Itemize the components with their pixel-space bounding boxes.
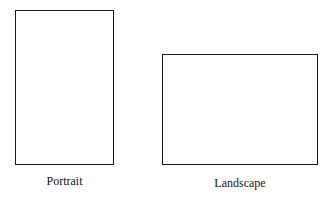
portrait-rectangle xyxy=(15,10,114,165)
landscape-rectangle xyxy=(162,54,318,165)
portrait-label: Portrait xyxy=(15,174,114,188)
landscape-label: Landscape xyxy=(162,176,318,190)
